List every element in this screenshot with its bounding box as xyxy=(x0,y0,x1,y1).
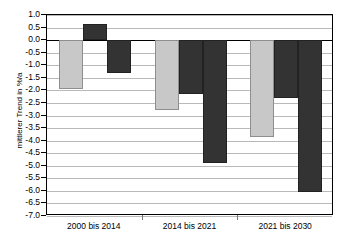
gridline xyxy=(47,178,332,179)
y-axis-tick-label: -3.5 xyxy=(8,123,40,131)
y-axis-tick-label: -4.0 xyxy=(8,136,40,144)
y-axis-tick-label: -6.0 xyxy=(8,186,40,194)
gridline xyxy=(47,166,332,167)
y-axis-tick-label: -4.5 xyxy=(8,148,40,156)
bar xyxy=(203,40,227,163)
gridline xyxy=(47,216,332,217)
bar xyxy=(274,40,298,98)
gridline xyxy=(47,128,332,129)
gridline xyxy=(47,103,332,104)
x-axis-category-label: 2021 bis 2030 xyxy=(240,221,330,231)
gridline xyxy=(47,15,332,16)
y-axis-tick-label: 0.0 xyxy=(8,35,40,43)
y-axis-tick-label: -2.0 xyxy=(8,85,40,93)
x-axis-category-label: 2014 bis 2021 xyxy=(145,221,235,231)
y-axis-tick-label: -5.5 xyxy=(8,173,40,181)
y-axis-tick-label: -5.0 xyxy=(8,161,40,169)
x-axis-tick xyxy=(142,215,143,220)
y-axis-tick-label: -2.5 xyxy=(8,98,40,106)
bar xyxy=(179,40,203,94)
y-axis-tick-label: 0.5 xyxy=(8,23,40,31)
bar xyxy=(155,40,179,110)
gridline xyxy=(47,203,332,204)
y-axis-tick-label: -0.5 xyxy=(8,48,40,56)
y-axis-tick-label: -7.0 xyxy=(8,211,40,219)
y-axis-tick-label: -6.5 xyxy=(8,198,40,206)
gridline xyxy=(47,191,332,192)
y-axis-tick-label: -3.0 xyxy=(8,111,40,119)
y-axis-tick-label: -1.5 xyxy=(8,73,40,81)
bar xyxy=(83,24,107,40)
bar xyxy=(250,40,274,137)
gridline xyxy=(47,153,332,154)
bar xyxy=(107,40,131,73)
y-axis-tick-label: 1.0 xyxy=(8,10,40,18)
bar-chart: mittlerer Trend in %/a 1.00.50.0-0.5-1.0… xyxy=(0,0,345,244)
bar xyxy=(298,40,322,192)
gridline xyxy=(47,116,332,117)
y-axis-tick xyxy=(41,215,46,216)
x-axis-category-label: 2000 bis 2014 xyxy=(49,221,139,231)
plot-area xyxy=(46,14,333,215)
y-axis-tick-label: -1.0 xyxy=(8,60,40,68)
x-axis-tick xyxy=(237,215,238,220)
bar xyxy=(59,40,83,89)
gridline xyxy=(47,141,332,142)
